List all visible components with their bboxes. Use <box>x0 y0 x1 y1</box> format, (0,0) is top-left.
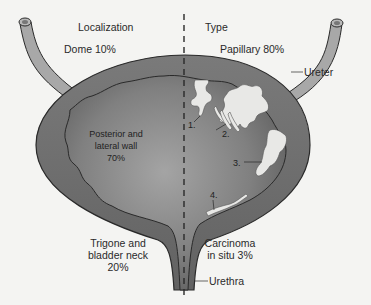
cis-line-2: in situ 3% <box>190 249 270 261</box>
trigone-line-3: 20% <box>68 261 168 273</box>
posterior-lateral-line-3: 70% <box>66 152 166 164</box>
posterior-lateral-wall-label: Posterior and lateral wall 70% <box>66 128 166 164</box>
ureter-label: Ureter <box>304 66 333 78</box>
posterior-lateral-line-2: lateral wall <box>66 140 166 152</box>
localization-heading: Localization <box>78 21 133 33</box>
tumor-marker-4: 4. <box>210 189 218 201</box>
posterior-lateral-line-1: Posterior and <box>66 128 166 140</box>
dome-label: Dome 10% <box>64 43 116 55</box>
tumor-marker-2: 2. <box>222 128 230 140</box>
carcinoma-in-situ-label: Carcinoma in situ 3% <box>190 237 270 261</box>
urethra-label: Urethra <box>209 275 244 287</box>
tumor-marker-3: 3. <box>233 157 241 169</box>
left-ureter <box>19 18 72 96</box>
trigone-label: Trigone and bladder neck 20% <box>68 237 168 273</box>
tumor-marker-1: 1. <box>188 119 196 131</box>
papillary-label: Papillary 80% <box>220 43 284 55</box>
trigone-line-1: Trigone and <box>68 237 168 249</box>
bladder-illustration <box>0 0 371 305</box>
type-heading: Type <box>205 21 228 33</box>
cis-line-1: Carcinoma <box>190 237 270 249</box>
bladder-tumor-diagram: Localization Type Dome 10% Posterior and… <box>0 0 371 305</box>
trigone-line-2: bladder neck <box>68 249 168 261</box>
